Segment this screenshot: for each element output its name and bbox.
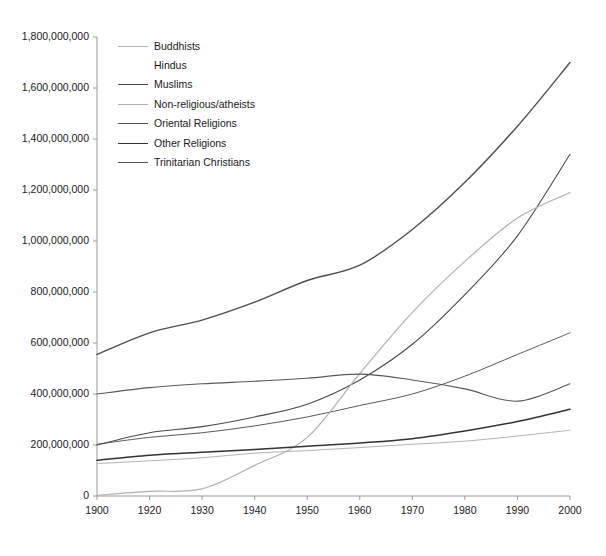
x-axis-tick-label: 1930 (172, 505, 232, 516)
y-axis-tick-label: 1,000,000,000 (0, 235, 89, 246)
line-chart: 0200,000,000400,000,000600,000,000800,00… (0, 0, 606, 556)
series-line-other-religions (97, 409, 570, 460)
legend-item: Hindus (118, 55, 288, 74)
legend-item-label: Other Religions (154, 137, 226, 149)
legend-item-label: Hindus (154, 59, 187, 71)
legend-line-swatch (118, 137, 148, 148)
series-line-muslims (97, 154, 570, 445)
legend-line-swatch (118, 40, 148, 51)
y-axis-tick-label: 1,200,000,000 (0, 184, 89, 195)
legend-item-label: Non-religious/atheists (154, 98, 255, 110)
y-axis-tick-label: 1,600,000,000 (0, 82, 89, 93)
legend-item-label: Trinitarian Christians (154, 156, 250, 168)
legend-line-swatch (118, 118, 148, 129)
legend-item: Muslims (118, 75, 288, 94)
legend-swatch-line (118, 162, 148, 163)
y-axis-tick-label: 600,000,000 (0, 337, 89, 348)
legend-swatch-line (118, 104, 148, 105)
legend-item: Non-religious/atheists (118, 94, 288, 113)
x-axis-tick-label: 1940 (225, 505, 285, 516)
x-axis-tick-label: 1900 (67, 505, 127, 516)
x-axis-tick-label: 1920 (120, 505, 180, 516)
y-axis-tick-label: 1,800,000,000 (0, 31, 89, 42)
y-axis-tick-label: 400,000,000 (0, 388, 89, 399)
y-axis-tick-label: 1,400,000,000 (0, 133, 89, 144)
x-axis-tick-label: 2000 (540, 505, 600, 516)
plot-area (0, 0, 606, 556)
y-axis-tick-label: 0 (0, 490, 89, 501)
legend-item: Trinitarian Christians (118, 152, 288, 171)
series-line-hindus (97, 333, 570, 444)
x-axis-tick-label: 1970 (382, 505, 442, 516)
x-axis-tick-label: 1990 (487, 505, 547, 516)
legend-item: Buddhists (118, 36, 288, 55)
series-line-oriental-religions (97, 374, 570, 401)
legend-item: Other Religions (118, 133, 288, 152)
chart-legend: BuddhistsHindusMuslimsNon-religious/athe… (118, 36, 288, 172)
legend-line-swatch (118, 79, 148, 90)
legend-swatch-line (118, 123, 148, 124)
legend-item-label: Oriental Religions (154, 117, 237, 129)
legend-swatch-line (118, 84, 148, 85)
x-axis-tick-label: 1950 (277, 505, 337, 516)
series-line-non-religious-atheists (97, 193, 570, 496)
legend-item-label: Muslims (154, 78, 193, 90)
legend-item: Oriental Religions (118, 114, 288, 133)
y-axis-tick-label: 800,000,000 (0, 286, 89, 297)
legend-swatch-line (118, 143, 148, 144)
x-axis-tick-label: 1960 (330, 505, 390, 516)
x-axis-tick-label: 1980 (435, 505, 495, 516)
legend-swatch-line (118, 46, 148, 47)
legend-line-swatch (118, 157, 148, 168)
y-axis-tick-label: 200,000,000 (0, 439, 89, 450)
legend-line-swatch (118, 60, 148, 71)
legend-item-label: Buddhists (154, 40, 200, 52)
legend-line-swatch (118, 98, 148, 109)
